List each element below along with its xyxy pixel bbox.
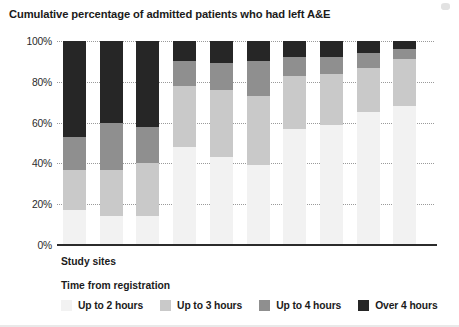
bar-segment[interactable] xyxy=(357,68,380,113)
legend-swatch xyxy=(61,300,72,311)
legend-swatch xyxy=(160,300,171,311)
chart-figure: Cumulative percentage of admitted patien… xyxy=(0,0,459,327)
bar-segment[interactable] xyxy=(136,41,159,127)
bar-segment[interactable] xyxy=(173,61,196,85)
bar-segment[interactable] xyxy=(210,157,233,245)
bar-segment[interactable] xyxy=(320,41,343,57)
bar-column[interactable] xyxy=(283,41,306,245)
bar-segment[interactable] xyxy=(283,129,306,245)
bar-segment[interactable] xyxy=(100,216,123,245)
legend-label: Up to 2 hours xyxy=(78,300,143,311)
bar-segment[interactable] xyxy=(393,49,416,59)
bar-segment[interactable] xyxy=(247,96,270,165)
bar-segment[interactable] xyxy=(320,57,343,73)
bar-segment[interactable] xyxy=(136,163,159,216)
bar-segment[interactable] xyxy=(247,61,270,96)
bar-segment[interactable] xyxy=(173,86,196,147)
bar-segment[interactable] xyxy=(100,123,123,170)
bar-column[interactable] xyxy=(247,41,270,245)
bars-layer xyxy=(57,41,434,245)
bar-segment[interactable] xyxy=(136,127,159,164)
bar-segment[interactable] xyxy=(210,63,233,90)
bar-segment[interactable] xyxy=(100,41,123,123)
bar-segment[interactable] xyxy=(283,41,306,57)
plot-area xyxy=(57,41,434,245)
bar-column[interactable] xyxy=(136,41,159,245)
x-axis-title: Study sites xyxy=(61,256,116,267)
bar-segment[interactable] xyxy=(393,41,416,49)
bar-segment[interactable] xyxy=(320,125,343,245)
bar-segment[interactable] xyxy=(173,147,196,245)
bar-segment[interactable] xyxy=(357,41,380,53)
bar-segment[interactable] xyxy=(63,210,86,245)
y-tick-label-100pct: 100% xyxy=(26,36,52,47)
scan-artifact xyxy=(441,3,450,10)
legend-item[interactable]: Up to 3 hours xyxy=(160,300,242,311)
y-tick-label-0pct: 0% xyxy=(38,240,52,251)
bar-segment[interactable] xyxy=(393,59,416,106)
bar-segment[interactable] xyxy=(100,170,123,217)
bar-segment[interactable] xyxy=(63,137,86,170)
bar-column[interactable] xyxy=(63,41,86,245)
legend-title: Time from registration xyxy=(61,280,170,291)
bar-column[interactable] xyxy=(393,41,416,245)
bar-segment[interactable] xyxy=(63,170,86,211)
bar-segment[interactable] xyxy=(283,57,306,75)
bar-column[interactable] xyxy=(173,41,196,245)
legend-label: Up to 4 hours xyxy=(276,300,341,311)
bar-segment[interactable] xyxy=(210,41,233,63)
y-tick-label-40pct: 40% xyxy=(32,158,52,169)
bar-segment[interactable] xyxy=(63,41,86,137)
bar-segment[interactable] xyxy=(393,106,416,245)
bar-segment[interactable] xyxy=(210,90,233,157)
bar-column[interactable] xyxy=(210,41,233,245)
y-tick-label-20pct: 20% xyxy=(32,199,52,210)
y-axis: 0%20%40%60%80%100% xyxy=(0,41,52,245)
y-tick-label-80pct: 80% xyxy=(32,76,52,87)
axis-baseline xyxy=(57,244,437,246)
bar-segment[interactable] xyxy=(136,216,159,245)
bar-segment[interactable] xyxy=(247,165,270,245)
chart-title: Cumulative percentage of admitted patien… xyxy=(9,8,449,20)
bar-segment[interactable] xyxy=(357,112,380,245)
legend-label: Over 4 hours xyxy=(375,300,437,311)
bar-column[interactable] xyxy=(100,41,123,245)
bar-segment[interactable] xyxy=(173,41,196,61)
legend-swatch xyxy=(358,300,369,311)
legend-label: Up to 3 hours xyxy=(177,300,242,311)
legend: Up to 2 hoursUp to 3 hoursUp to 4 hoursO… xyxy=(61,297,455,313)
bar-segment[interactable] xyxy=(247,41,270,61)
legend-item[interactable]: Over 4 hours xyxy=(358,300,437,311)
legend-swatch xyxy=(259,300,270,311)
y-tick-label-60pct: 60% xyxy=(32,117,52,128)
bar-segment[interactable] xyxy=(320,74,343,125)
bar-column[interactable] xyxy=(357,41,380,245)
legend-item[interactable]: Up to 2 hours xyxy=(61,300,143,311)
legend-item[interactable]: Up to 4 hours xyxy=(259,300,341,311)
bar-column[interactable] xyxy=(320,41,343,245)
bar-segment[interactable] xyxy=(283,76,306,129)
bar-segment[interactable] xyxy=(357,53,380,67)
